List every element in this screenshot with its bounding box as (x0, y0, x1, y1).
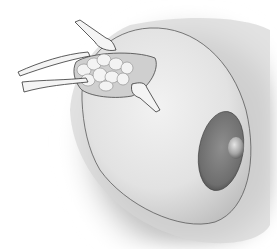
medical-illustration (0, 0, 277, 249)
nipple (228, 137, 244, 159)
